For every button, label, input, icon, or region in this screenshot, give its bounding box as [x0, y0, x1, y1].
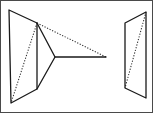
projection-triangle: [37, 23, 55, 89]
figure-container: [0, 0, 153, 113]
wireframe-diagram: [1, 1, 153, 113]
left-plane-fill: [9, 10, 37, 103]
right-plane-fill: [125, 12, 146, 98]
upper-projection-ray: [37, 23, 106, 57]
